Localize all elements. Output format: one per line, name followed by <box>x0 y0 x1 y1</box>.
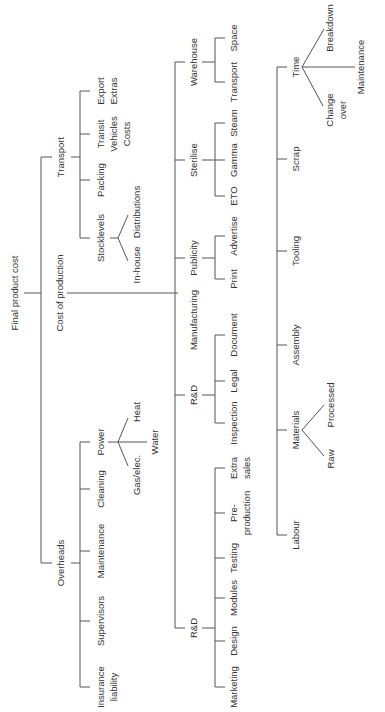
node-time-maintenance: Maintenance <box>355 40 366 94</box>
node-power: Power <box>95 429 106 456</box>
node-cost-of-production: Cost of production <box>54 254 65 331</box>
node-rd-upper: R&D <box>188 385 199 405</box>
node-eto: ETO <box>228 186 239 205</box>
node-costs: Costs <box>121 122 132 147</box>
node-extra: Extra <box>228 456 239 479</box>
node-pre: Pre- <box>228 504 239 522</box>
node-warehouse: Warehouse <box>188 38 199 86</box>
node-inspection: Inspection <box>228 401 239 444</box>
node-change: Change <box>324 93 335 126</box>
node-water: Water <box>149 430 160 455</box>
node-transport: Transport <box>55 136 66 177</box>
node-supervisors: Supervisors <box>95 596 106 646</box>
node-wh-space: Space <box>228 25 239 52</box>
node-cleaning: Cleaning <box>95 470 106 508</box>
node-design: Design <box>228 626 239 656</box>
node-raw: Raw <box>325 449 336 468</box>
node-rd-lower: R&D <box>188 618 199 638</box>
node-over: over <box>337 101 348 119</box>
node-marketing: Marketing <box>228 666 239 708</box>
node-gas-elec: Gas/elec. <box>131 455 142 495</box>
connector-lines <box>24 29 355 687</box>
node-transit: Transit <box>95 119 106 148</box>
node-production: production <box>241 491 252 535</box>
labels: Final product cost Cost of production Tr… <box>9 4 366 708</box>
node-time: Time <box>290 57 301 78</box>
node-final-product-cost: Final product cost <box>9 255 20 330</box>
node-processed: Processed <box>325 383 336 428</box>
node-materials: Materials <box>290 410 301 449</box>
node-print: Print <box>228 269 239 289</box>
node-wh-transport: Transport <box>228 61 239 102</box>
node-modules: Modules <box>228 580 239 616</box>
node-advertise: Advertise <box>228 216 239 256</box>
cost-tree-diagram: Final product cost Cost of production Tr… <box>0 0 385 712</box>
node-packing: Packing <box>95 163 106 197</box>
node-breakdown: Breakdown <box>324 4 335 52</box>
node-export: Export <box>95 77 106 105</box>
node-assembly: Assembly <box>290 324 301 365</box>
node-insurance: Insurance <box>95 666 106 708</box>
node-steam: Steam <box>228 109 239 137</box>
node-stocklevels: Stocklevels <box>95 214 106 262</box>
node-legal: Legal <box>228 369 239 392</box>
node-heat: Heat <box>131 402 142 422</box>
node-extras: Extras <box>108 77 119 104</box>
node-publicity: Publicity <box>188 240 199 276</box>
node-testing: Testing <box>228 543 239 573</box>
node-in-house: In-house <box>131 247 142 284</box>
node-gamma: Gamma <box>228 142 239 177</box>
node-sterilise: Sterilise <box>188 143 199 177</box>
node-scrap: Scrap <box>290 147 301 172</box>
node-overheads: Overheads <box>55 540 66 587</box>
node-manufacturing: Manufacturing <box>188 290 199 350</box>
node-liability: liability <box>108 672 119 701</box>
node-sales: sales <box>241 457 252 479</box>
node-document: Document <box>228 313 239 357</box>
node-labour: Labour <box>290 520 301 550</box>
node-vehicles: Vehicles <box>108 116 119 152</box>
node-maintenance: Maintenance <box>95 524 106 578</box>
node-distributions: Distributions <box>131 186 142 239</box>
node-tooling: Tooling <box>290 236 301 266</box>
